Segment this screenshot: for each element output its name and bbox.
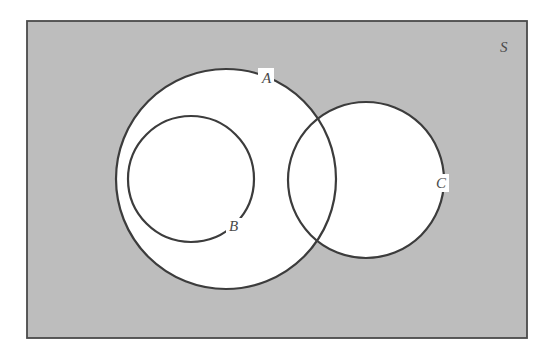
venn-diagram: S A B C <box>0 0 550 358</box>
set-c-label: C <box>436 175 447 191</box>
universe-label: S <box>500 39 508 55</box>
set-a-label: A <box>261 70 272 86</box>
set-b-label: B <box>229 218 238 234</box>
